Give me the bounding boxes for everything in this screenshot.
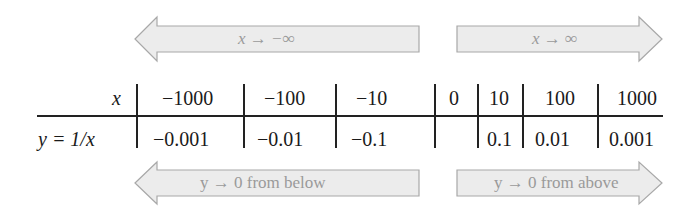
table-horizontal-rule — [37, 115, 663, 117]
column-divider — [477, 84, 479, 148]
y-value-cell: −0.01 — [257, 129, 303, 149]
x-value-cell: 100 — [545, 88, 575, 108]
y-value-cell: 0.01 — [535, 129, 570, 149]
arrow-label-x-neg-inf: x → −∞ — [238, 30, 295, 47]
column-divider — [243, 84, 245, 148]
arrow-label-from-above: y → 0 from above — [494, 174, 619, 191]
arrow-label-from-below: y → 0 from below — [200, 174, 326, 191]
y-value-cell: 0.1 — [487, 129, 512, 149]
arrow-y-to-zero-from-below: y → 0 from below — [134, 161, 420, 205]
arrow-y-to-zero-from-above: y → 0 from above — [456, 161, 664, 205]
row-header-x: x — [112, 88, 121, 108]
column-divider — [136, 84, 138, 148]
column-divider — [434, 84, 436, 148]
y-value-cell: −0.001 — [153, 129, 209, 149]
x-value-cell: −100 — [264, 88, 305, 108]
x-value-cell: 10 — [489, 88, 509, 108]
arrow-x-to-infinity: x → ∞ — [456, 16, 664, 62]
column-divider — [597, 84, 599, 148]
column-divider — [522, 84, 524, 148]
y-value-cell: 0.001 — [609, 129, 654, 149]
row-header-y: y = 1/x — [38, 129, 95, 149]
x-value-cell: 0 — [449, 88, 459, 108]
x-value-cell: −1000 — [162, 88, 213, 108]
arrow-x-to-negative-infinity: x → −∞ — [134, 16, 420, 62]
x-value-cell: 1000 — [617, 88, 657, 108]
arrow-label-x-inf: x → ∞ — [532, 30, 577, 47]
y-value-cell: −0.1 — [351, 129, 387, 149]
column-divider — [335, 84, 337, 148]
x-value-cell: −10 — [356, 88, 387, 108]
